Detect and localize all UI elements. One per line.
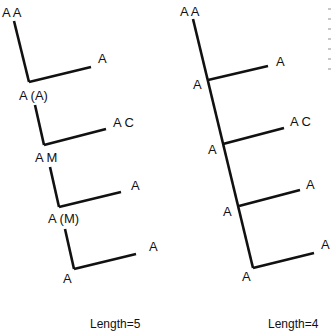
left-branch-3 — [59, 192, 121, 207]
left-label-branch1-tip: A — [98, 52, 107, 65]
right-label-top: A A — [180, 5, 200, 18]
right-branch-2 — [223, 128, 284, 144]
left-label-branch4-tip: A — [149, 240, 158, 253]
right-branch-4 — [253, 253, 314, 268]
right-label-node1: A — [193, 78, 202, 91]
left-label-node1: A (A) — [19, 89, 48, 102]
right-caption: Length=4 — [268, 318, 318, 330]
left-segment-4 — [65, 229, 74, 269]
left-segment-2 — [35, 105, 44, 145]
right-label-bottom: A — [242, 270, 251, 283]
left-segment-1 — [14, 21, 29, 82]
left-label-node2: A M — [35, 151, 57, 164]
left-branch-1 — [29, 67, 91, 82]
right-branch-1 — [208, 66, 268, 80]
left-caption: Length=5 — [90, 318, 140, 330]
left-tree-lines — [14, 21, 136, 269]
right-label-branch3-tip: A — [306, 178, 315, 191]
right-label-node3: A — [223, 205, 232, 218]
left-segment-3 — [50, 167, 59, 207]
right-label-branch1-tip: A — [276, 55, 285, 68]
left-label-node3: A (M) — [48, 212, 79, 225]
left-label-top: A A — [2, 6, 22, 19]
cropped-text-fragment — [328, 8, 333, 88]
right-branch-3 — [239, 190, 300, 206]
left-branch-4 — [74, 254, 136, 269]
right-label-branch4-tip: A — [321, 238, 330, 251]
right-label-branch2-tip: A C — [290, 115, 311, 128]
left-label-bottom: A — [63, 272, 72, 285]
right-label-node2: A — [208, 143, 217, 156]
left-label-branch2-tip: A C — [113, 116, 134, 129]
left-label-branch3-tip: A — [131, 179, 140, 192]
left-branch-2 — [44, 129, 106, 145]
